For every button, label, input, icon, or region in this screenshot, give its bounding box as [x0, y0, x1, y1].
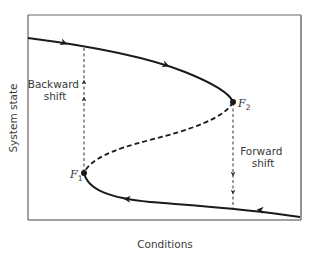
y-axis-label: System state — [7, 83, 19, 152]
backward-shift-label: Backward shift — [28, 78, 83, 102]
lower-stable-branch — [84, 173, 300, 217]
fold-point-f2 — [230, 99, 236, 105]
plot-frame — [28, 15, 301, 220]
bifurcation-diagram: F2 F1 Backward shift Forward shift Condi… — [0, 0, 314, 261]
f2-label: F2 — [237, 97, 251, 112]
middle-unstable-branch — [84, 102, 233, 173]
x-axis-label: Conditions — [137, 238, 193, 250]
lower-branch-arrow-2 — [260, 210, 270, 211]
f1-label: F1 — [69, 168, 83, 183]
forward-shift-label: Forward shift — [240, 145, 286, 169]
